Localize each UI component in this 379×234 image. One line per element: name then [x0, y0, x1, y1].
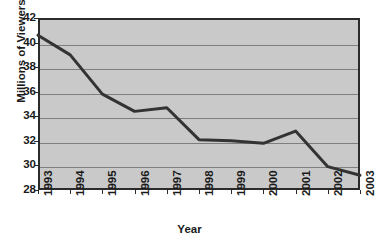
x-axis-tick-label: 2002 [333, 150, 345, 196]
x-axis-tick-mark [167, 190, 168, 194]
line-chart: Millions of Viewers 4240383634323028 199… [0, 0, 379, 234]
x-axis-tick-label: 2003 [365, 150, 377, 196]
x-axis-tick-label: 1996 [140, 150, 152, 196]
y-axis-tick-mark [34, 141, 38, 142]
y-axis-tick-mark [34, 67, 38, 68]
x-axis-tick-mark [296, 190, 297, 194]
y-axis-tick-mark [34, 92, 38, 93]
gridline [40, 45, 358, 46]
x-axis-tick-mark [102, 190, 103, 194]
x-axis-tick-label: 1998 [204, 150, 216, 196]
y-axis-tick-mark [34, 18, 38, 19]
x-axis-tick-label: 2000 [268, 150, 280, 196]
gridline [40, 118, 358, 119]
y-axis-tick-label: 30 [2, 159, 36, 171]
y-axis-tick-mark [34, 116, 38, 117]
x-axis-tick-label: 1995 [107, 150, 119, 196]
x-axis-tick-mark [263, 190, 264, 194]
y-axis-tick-mark [34, 43, 38, 44]
y-axis-tick-label: 42 [2, 12, 36, 24]
x-axis-tick-mark [135, 190, 136, 194]
x-axis-tick-label: 1994 [75, 150, 87, 196]
y-axis-tick-label: 40 [2, 37, 36, 49]
x-axis-tick-mark [328, 190, 329, 194]
x-axis-tick-label: 1997 [172, 150, 184, 196]
gridline [40, 94, 358, 95]
gridline [40, 143, 358, 144]
y-axis-tick-mark [34, 165, 38, 166]
x-axis-tick-mark [38, 190, 39, 194]
x-axis-tick-mark [231, 190, 232, 194]
gridline [40, 69, 358, 70]
y-axis-tick-label: 34 [2, 110, 36, 122]
y-axis-tick-label: 32 [2, 135, 36, 147]
x-axis-tick-label: 2001 [301, 150, 313, 196]
y-axis-tick-label: 28 [2, 184, 36, 196]
x-axis-tick-mark [360, 190, 361, 194]
y-axis-tick-labels: 4240383634323028 [0, 0, 36, 234]
x-axis-tick-mark [199, 190, 200, 194]
x-axis-tick-label: 1993 [43, 150, 55, 196]
x-axis-tick-label: 1999 [236, 150, 248, 196]
x-axis-tick-mark [70, 190, 71, 194]
y-axis-tick-label: 36 [2, 86, 36, 98]
x-axis-title: Year [0, 223, 379, 234]
y-axis-tick-label: 38 [2, 61, 36, 73]
